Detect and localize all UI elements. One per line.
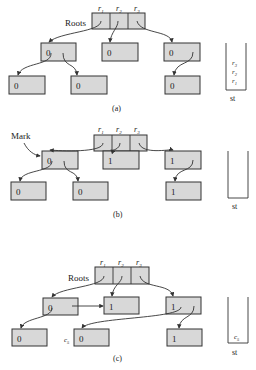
stack-item-0: r3 — [232, 59, 238, 68]
node-d-mark: 0 — [16, 187, 21, 197]
stack-item-1: r2 — [232, 68, 238, 77]
stack — [228, 151, 248, 198]
root-label-r3: r3 — [134, 125, 140, 135]
panel-caption: (b) — [113, 210, 123, 219]
node-b-mark: 1 — [108, 156, 113, 166]
node-d-mark: 0 — [17, 334, 22, 344]
node-e-mark: 0 — [79, 334, 84, 344]
panel-b: Mark r1 r2 r3 0 1 1 0 0 1 st (b) — [11, 125, 248, 219]
stack-label: st — [232, 348, 238, 357]
node-e-mark: 0 — [76, 81, 81, 91]
stack-item-0: c5 — [234, 333, 240, 342]
roots-label: Roots — [65, 18, 87, 28]
node-f-mark: 1 — [172, 334, 177, 344]
stack-label: st — [232, 202, 238, 211]
node-f-mark: 0 — [170, 81, 175, 91]
node-c-mark: 0 — [169, 48, 174, 58]
panel-a: Roots r1 r2 r3 0 0 0 0 0 0 r3 — [9, 4, 246, 113]
node-c-mark: 1 — [170, 156, 175, 166]
root-label-r2: r2 — [116, 125, 122, 135]
roots-array — [95, 267, 149, 284]
node-f-mark: 1 — [171, 187, 176, 197]
node-c-mark: 1 — [171, 302, 176, 312]
node-b-mark: 0 — [107, 48, 112, 58]
root-label-r1: r1 — [98, 125, 104, 135]
node-d-mark: 0 — [14, 81, 19, 91]
mark-arrow — [24, 143, 40, 156]
panel-caption: (c) — [113, 354, 122, 363]
panel-c: Roots r1 r2 r3 0 1 1 0 c5 0 1 c5 st (c) — [12, 258, 248, 363]
mark-label: Mark — [11, 131, 31, 141]
stack-label: st — [230, 94, 236, 103]
node-b-mark: 1 — [109, 302, 114, 312]
stack-item-2: r1 — [232, 77, 237, 86]
node-e-pointer-label: c5 — [64, 336, 70, 345]
mark-phase-diagram: Roots r1 r2 r3 0 0 0 0 0 0 r3 — [0, 0, 256, 370]
roots-label: Roots — [68, 273, 90, 283]
node-e-mark: 0 — [78, 187, 83, 197]
panel-caption: (a) — [112, 104, 121, 113]
